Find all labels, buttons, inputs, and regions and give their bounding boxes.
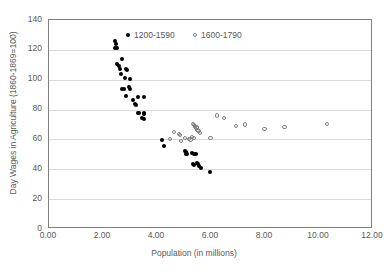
data-point-series-1 — [185, 152, 189, 156]
x-axis-title: Population (in millions) — [0, 248, 388, 258]
data-point-series-2 — [194, 125, 198, 129]
chart-legend: 1200-15901600-1790 — [126, 30, 242, 40]
legend-label: 1600-1790 — [201, 30, 242, 40]
data-point-series-2 — [325, 122, 329, 126]
gridline-y-100 — [49, 80, 371, 81]
data-point-series-1 — [142, 95, 146, 99]
gridline-y-20 — [49, 199, 371, 200]
gridline-y-120 — [49, 50, 371, 51]
x-tick-label: 8.00 — [242, 231, 286, 240]
gridline-y-80 — [49, 110, 371, 111]
y-tick-label: 20 — [0, 194, 42, 203]
data-point-series-2 — [234, 124, 238, 128]
x-tick-label: 6.00 — [188, 231, 232, 240]
y-axis-title: Day Wages in Agriculture (1860-1869=100) — [8, 8, 18, 218]
data-point-series-2 — [208, 136, 212, 140]
x-tick-label: 10.00 — [296, 231, 340, 240]
y-tick-label: 60 — [0, 134, 42, 143]
data-point-series-1 — [124, 94, 128, 98]
x-tick-label: 0.00 — [26, 231, 70, 240]
data-point-series-2 — [168, 137, 172, 141]
data-point-series-1 — [134, 103, 138, 107]
data-point-series-1 — [162, 144, 166, 148]
data-point-series-1 — [137, 111, 141, 115]
data-point-series-1 — [122, 87, 126, 91]
data-point-series-1 — [125, 68, 129, 72]
y-tick-label: 120 — [0, 44, 42, 53]
data-point-series-1 — [199, 166, 203, 170]
data-point-series-1 — [136, 95, 140, 99]
data-point-series-1 — [120, 57, 124, 61]
data-point-series-2 — [282, 125, 286, 129]
x-tick-label: 2.00 — [80, 231, 124, 240]
plot-area — [48, 19, 372, 228]
data-point-series-1 — [194, 152, 198, 156]
legend-item-2[interactable]: 1600-1790 — [193, 30, 242, 40]
data-point-series-1 — [119, 72, 123, 76]
open-circle-icon — [193, 33, 197, 37]
data-point-series-2 — [215, 113, 219, 117]
data-point-series-1 — [115, 46, 119, 50]
filled-circle-icon — [126, 33, 130, 37]
legend-label: 1200-1590 — [134, 30, 175, 40]
x-tick-label: 12.00 — [350, 231, 388, 240]
y-tick-label: 140 — [0, 15, 42, 24]
data-point-series-1 — [128, 87, 132, 91]
data-point-series-1 — [123, 76, 127, 80]
y-tick-label: 80 — [0, 104, 42, 113]
y-tick-label: 100 — [0, 74, 42, 83]
data-point-series-1 — [128, 77, 132, 81]
data-point-series-2 — [262, 127, 266, 131]
data-point-series-2 — [178, 133, 182, 137]
data-point-series-1 — [142, 117, 146, 121]
x-tick-label: 4.00 — [134, 231, 178, 240]
data-point-series-2 — [243, 122, 247, 126]
data-point-series-2 — [198, 131, 202, 135]
data-point-series-2 — [222, 116, 226, 120]
data-point-series-1 — [160, 138, 164, 142]
legend-item-1[interactable]: 1200-1590 — [126, 30, 175, 40]
data-point-series-2 — [172, 130, 176, 134]
data-point-series-1 — [118, 67, 122, 71]
y-tick-label: 40 — [0, 164, 42, 173]
scatter-chart: 020406080100120140 0.002.004.006.008.001… — [0, 0, 388, 274]
